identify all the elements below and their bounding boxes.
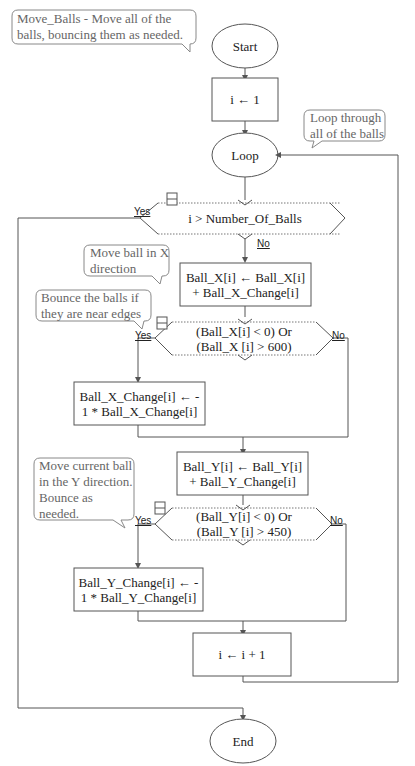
loop-label: Loop xyxy=(212,144,278,166)
loop-no-label: No xyxy=(257,238,270,249)
comment-bounce-x-text: Bounce the balls if they are near edges xyxy=(41,290,153,322)
x-no-label: No xyxy=(332,330,345,341)
start-label: Start xyxy=(212,35,278,57)
move-x-text: Ball_X[i] ← Ball_X[i] + Ball_X_Change[i] xyxy=(182,263,309,306)
comment-header-text: Move_Balls - Move all of the balls, boun… xyxy=(17,11,195,43)
init-label: i ← 1 xyxy=(212,78,278,121)
increment-text: i ← i + 1 xyxy=(193,633,291,676)
bounce-x-text: Ball_X_Change[i] ← - 1 * Ball_X_Change[i… xyxy=(76,382,203,425)
loop-condition-text: i > Number_Of_Balls xyxy=(165,203,325,234)
y-no-label: No xyxy=(330,515,343,526)
y-condition-text: (Ball_Y[i] < 0) Or (Ball_Y [i] > 450) xyxy=(176,508,312,540)
x-yes-label: Yes xyxy=(135,330,151,341)
comment-move-y-text: Move current ball in the Y direction. Bo… xyxy=(39,458,135,522)
y-yes-label: Yes xyxy=(135,515,151,526)
end-label: End xyxy=(210,730,276,752)
comment-loop-text: Loop through all of the balls xyxy=(310,110,388,142)
bounce-y-text: Ball_Y_Change[i] ← - 1 * Ball_Y_Change[i… xyxy=(76,568,201,611)
comment-move-x-text: Move ball in X direction xyxy=(90,245,170,277)
move-y-text: Ball_Y[i] ← Ball_Y[i] + Ball_Y_Change[i] xyxy=(179,452,306,495)
loop-yes-label: Yes xyxy=(134,206,150,217)
x-condition-text: (Ball_X[i] < 0) Or (Ball_X [i] > 600) xyxy=(176,322,312,355)
